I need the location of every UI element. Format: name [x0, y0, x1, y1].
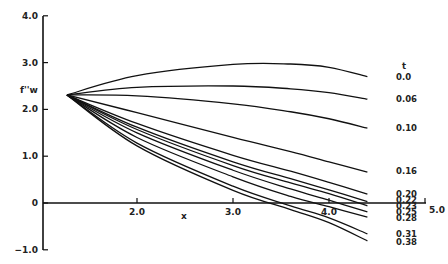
y-tick-label: 0 [32, 198, 38, 208]
y-axis-title: f''w [20, 85, 38, 95]
x-tick-label: 2.0 [129, 207, 145, 217]
curve-label: 0.10 [396, 123, 417, 133]
y-tick-label: 3.0 [22, 58, 38, 68]
curve-label: 0.16 [396, 166, 417, 176]
curve-label: 0.38 [396, 237, 417, 247]
y-tick-label: −1.0 [15, 245, 38, 255]
curve-t-0.25 [67, 95, 367, 212]
line-chart: 4.03.02.01.00−1.0 2.03.04.05.0 0.00.060.… [0, 0, 448, 264]
curve-label: 0.28 [396, 213, 417, 223]
x-tick-label: 3.0 [225, 207, 241, 217]
curve-labels: 0.00.060.100.160.200.220.230.250.280.310… [396, 72, 417, 247]
x-axis-title: x [181, 211, 187, 221]
curve-t-0.0 [67, 63, 367, 95]
curve-t-0.06 [67, 86, 367, 99]
y-tick-label: 4.0 [22, 11, 38, 21]
y-tick-label: 1.0 [22, 151, 38, 161]
curve-label: 0.06 [396, 94, 417, 104]
y-tick-label: 2.0 [22, 104, 38, 114]
legend-title: t [402, 61, 406, 71]
x-tick-label: 5.0 [429, 205, 445, 215]
curve-t-0.22 [67, 95, 367, 202]
curve-label: 0.0 [396, 72, 411, 82]
